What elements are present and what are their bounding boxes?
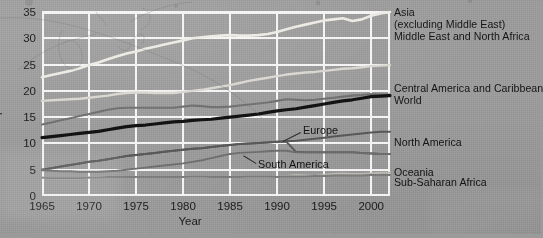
series-line	[42, 12, 390, 77]
plot-area	[42, 12, 390, 196]
y-tick-label: 15	[10, 111, 36, 123]
legend-entry-sublabel: (excluding Middle East)	[394, 18, 505, 30]
x-tick-label: 1975	[123, 200, 149, 212]
x-axis-label: Year	[178, 215, 201, 227]
legend-entry-label: World	[394, 94, 422, 106]
legend-entry-label: Sub-Saharan Africa	[394, 176, 487, 188]
y-tick-label: 25	[10, 59, 36, 71]
y-tick-label: 35	[10, 6, 36, 18]
series-line	[42, 132, 390, 170]
y-axis-label: per cent	[0, 75, 2, 115]
legend-entry: North America	[394, 136, 462, 148]
x-tick-label: 1990	[264, 200, 290, 212]
y-tick-label: 10	[10, 137, 36, 149]
series-line	[42, 175, 390, 178]
series-line	[42, 65, 390, 101]
legend-entry: Middle East and North Africa	[394, 30, 530, 42]
x-tick-label: 1995	[311, 200, 337, 212]
y-tick-label: 5	[10, 164, 36, 176]
series-lines	[42, 12, 390, 196]
legend-entry-label: North America	[394, 136, 462, 148]
callout-south-america: South America	[258, 158, 329, 170]
legend-entry-label: Asia	[394, 6, 415, 18]
legend: Asia(excluding Middle East)Middle East a…	[394, 0, 541, 234]
x-tick-label: 1985	[217, 200, 243, 212]
y-tick-label: 20	[10, 85, 36, 97]
y-tick-label: 30	[10, 32, 36, 44]
legend-entry-label: Central America and Caribbean	[394, 82, 543, 94]
legend-entry: World	[394, 94, 422, 106]
legend-entry-label: Middle East and North Africa	[394, 30, 530, 42]
x-tick-label: 1965	[29, 200, 55, 212]
legend-entry: Sub-Saharan Africa	[394, 176, 487, 188]
x-tick-label: 1980	[170, 200, 196, 212]
x-tick-label: 1970	[76, 200, 102, 212]
x-tick-label: 2000	[358, 200, 384, 212]
callout-europe: Europe	[303, 124, 338, 136]
legend-entry: Central America and Caribbean	[394, 82, 543, 94]
legend-entry: Asia(excluding Middle East)	[394, 6, 505, 30]
